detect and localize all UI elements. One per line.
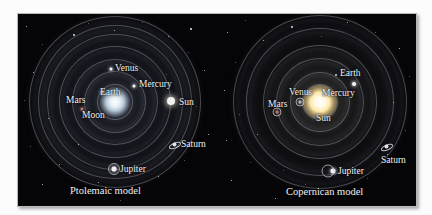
- astronomy-plate: Venus Mercury Earth Mars Moon Sun Saturn…: [17, 13, 417, 207]
- caption-copernican: Copernican model: [286, 187, 363, 198]
- body-sun: [167, 97, 175, 105]
- body-mars: [276, 111, 279, 114]
- label-jupiter: Jupiter: [120, 165, 146, 175]
- label-moon: Moon: [82, 111, 105, 121]
- label-venus: Venus: [115, 64, 138, 74]
- body-saturn: [382, 142, 391, 151]
- label-earth: Earth: [340, 69, 361, 79]
- body-jupiter-halo: [322, 165, 335, 178]
- body-venus: [110, 68, 113, 71]
- label-mars: Mars: [268, 100, 288, 110]
- label-saturn: Saturn: [181, 140, 206, 150]
- panel-copernican: Earth Venus Mercury Mars Sun Saturn Jupi…: [217, 14, 416, 206]
- label-mercury: Mercury: [322, 89, 355, 99]
- body-mercury: [133, 85, 136, 88]
- label-jupiter: Jupiter: [338, 167, 364, 177]
- label-mars: Mars: [66, 96, 86, 106]
- label-saturn: Saturn: [381, 156, 406, 166]
- label-mercury: Mercury: [139, 80, 172, 90]
- body-jupiter-halo: [108, 163, 120, 175]
- label-sun: Sun: [179, 98, 194, 108]
- saturn-planet: [384, 144, 388, 148]
- figure-root: Venus Mercury Earth Mars Moon Sun Saturn…: [0, 0, 432, 215]
- label-venus: Venus: [289, 88, 312, 98]
- saturn-planet: [172, 142, 176, 146]
- body-saturn: [170, 140, 179, 149]
- body-venus: [299, 101, 302, 104]
- body-earth: [352, 82, 356, 86]
- panel-ptolemaic: Venus Mercury Earth Mars Moon Sun Saturn…: [18, 14, 217, 206]
- label-earth: Earth: [100, 88, 121, 98]
- label-sun: Sun: [316, 114, 331, 124]
- caption-ptolemaic: Ptolemaic model: [70, 186, 141, 197]
